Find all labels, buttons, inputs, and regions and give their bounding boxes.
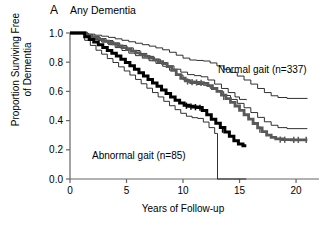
x-tick-label: 15: [234, 185, 246, 196]
x-tick-label: 0: [67, 185, 73, 196]
chart-root: A Any Dementia Proportion Surviving Free…: [0, 0, 332, 225]
abnormal-gait-annotation: Abnormal gait (n=85): [92, 150, 186, 161]
x-tick-label: 10: [177, 185, 189, 196]
y-tick-label: 0.8: [49, 57, 63, 68]
y-tick-label: 1.0: [49, 28, 63, 39]
x-tick-label: 5: [124, 185, 130, 196]
y-tick-label: 0.6: [49, 86, 63, 97]
x-tick-label: 20: [290, 185, 302, 196]
y-tick-label: 0.2: [49, 144, 63, 155]
normal-gait-annotation: Normal gait (n=337): [218, 64, 307, 75]
y-tick-label: 0.4: [49, 115, 63, 126]
y-tick-label: 0.0: [49, 174, 63, 185]
survival-plot: 1.00.80.60.40.20.005101520Normal gait (n…: [0, 0, 332, 225]
